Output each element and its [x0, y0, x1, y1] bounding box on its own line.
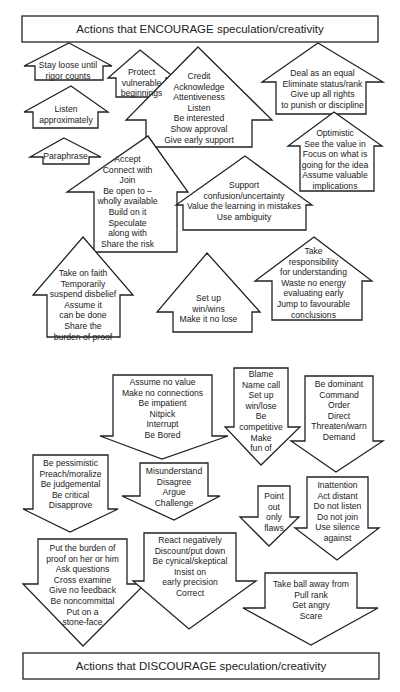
- label-line: Give no feedback: [36, 585, 129, 596]
- label-line: Set up: [157, 293, 260, 304]
- label-line: Build on it: [67, 207, 188, 218]
- label-line: fun of: [234, 443, 288, 454]
- label-line: Disagree: [140, 477, 208, 488]
- label-line: Interrupt: [113, 419, 212, 430]
- label-line: early precision: [140, 577, 240, 588]
- label-line: only: [258, 512, 290, 523]
- label-line: React negatively: [140, 535, 240, 546]
- label-line: Jump to favourable: [255, 299, 372, 310]
- label-line: Be judgemental: [30, 479, 111, 490]
- encourage-credit: Credit Acknowledge Attentiveness Listen …: [146, 71, 252, 145]
- label-line: Ask questions: [36, 564, 129, 575]
- encourage-take-faith: Take on faith Temporarily suspend disbel…: [33, 268, 133, 342]
- label-line: Discount/put down: [140, 546, 240, 557]
- label-line: Argue: [140, 487, 208, 498]
- label-line: Be noncommittal: [36, 596, 129, 607]
- label-line: Make it no lose: [157, 314, 260, 325]
- label-line: win/lose: [234, 401, 288, 412]
- label-line: win/wins: [157, 304, 260, 315]
- label-line: Get angry: [263, 600, 359, 611]
- label-line: Threaten/warn: [305, 421, 373, 432]
- label-line: Listen: [24, 104, 108, 115]
- label-line: Command: [305, 390, 373, 401]
- label-line: Share the risk: [67, 239, 188, 250]
- label-line: Insist on: [140, 567, 240, 578]
- label-line: Disapprove: [30, 500, 111, 511]
- label-line: Assume no value: [113, 377, 212, 388]
- header-title: Actions that ENCOURAGE speculation/creat…: [22, 16, 378, 42]
- label-line: Be interested: [146, 113, 252, 124]
- label-line: approximately: [24, 115, 108, 126]
- label-line: Be open to –: [67, 186, 188, 197]
- label-line: Blame: [234, 369, 288, 380]
- label-line: Do not listen: [307, 501, 368, 512]
- label-line: Preach/moralize: [30, 469, 111, 480]
- label-line: Make no connections: [113, 388, 212, 399]
- label-line: Assume it: [33, 300, 133, 311]
- label-line: Connect with: [67, 165, 188, 176]
- label-line: Act distant: [307, 491, 368, 502]
- label-line: Do not join: [307, 512, 368, 523]
- label-line: Value the learning in mistakes: [176, 201, 312, 212]
- label-line: competitive: [234, 422, 288, 433]
- label-line: Be Bored: [113, 430, 212, 441]
- label-line: Order: [305, 400, 373, 411]
- label-line: Take: [255, 246, 372, 257]
- label-line: evaluating early: [255, 288, 372, 299]
- label-line: Stay loose until: [24, 60, 112, 71]
- label-line: Direct: [305, 411, 373, 422]
- encourage-win-wins: Set up win/wins Make it no lose: [157, 293, 260, 325]
- label-line: Cross examine: [36, 575, 129, 586]
- label-line: Waste no energy: [255, 278, 372, 289]
- label-line: can be done: [33, 310, 133, 321]
- label-line: to punish or discipline: [262, 100, 383, 111]
- discourage-react-neg: React negatively Discount/put down Be cy…: [140, 535, 240, 599]
- label-line: Nitpick: [113, 409, 212, 420]
- discourage-burden: Put the burden of proof on her or him As…: [36, 543, 129, 628]
- label-line: wholly available: [67, 196, 188, 207]
- label-line: Be cynical/skeptical: [140, 556, 240, 567]
- discourage-assume-no-value: Assume no value Make no connections Be i…: [113, 377, 212, 441]
- label-line: suspend disbelief: [33, 289, 133, 300]
- discourage-blame: Blame Name call Set up win/lose Be compe…: [234, 369, 288, 454]
- label-line: Eliminate status/rank: [262, 79, 383, 90]
- label-line: Be dominant: [305, 379, 373, 390]
- label-line: Set up: [234, 390, 288, 401]
- label-line: responsibility: [255, 257, 372, 268]
- label-line: Share the: [33, 321, 133, 332]
- label-line: Optimistic: [288, 128, 382, 139]
- label-line: Be critical: [30, 490, 111, 501]
- label-line: flaws: [258, 523, 290, 534]
- label-line: Show approval: [146, 124, 252, 135]
- label-line: See the value in: [288, 139, 382, 150]
- label-line: Accept: [67, 154, 188, 165]
- label-line: going for the idea: [288, 160, 382, 171]
- encourage-deal-equal: Deal as an equal Eliminate status/rank G…: [262, 68, 383, 110]
- label-line: Be pessimistic: [30, 458, 111, 469]
- label-line: against: [307, 533, 368, 544]
- encourage-support: Support confusion/uncertainty Value the …: [176, 180, 312, 222]
- label-line: Use silence: [307, 522, 368, 533]
- label-line: Credit: [146, 71, 252, 82]
- label-line: Temporarily: [33, 279, 133, 290]
- label-line: proof on her or him: [36, 554, 129, 565]
- label-line: Point: [258, 491, 290, 502]
- label-line: stone-face: [36, 617, 129, 628]
- label-line: out: [258, 502, 290, 513]
- discourage-dominant: Be dominant Command Order Direct Threate…: [305, 379, 373, 443]
- discourage-take-ball: Take ball away from Pull rank Get angry …: [263, 579, 359, 621]
- label-line: along with: [67, 228, 188, 239]
- label-line: Focus on what is: [288, 149, 382, 160]
- label-line: Make: [234, 433, 288, 444]
- discourage-misunderstand: Misunderstand Disagree Argue Challenge: [140, 466, 208, 508]
- label-line: Attentiveness: [146, 92, 252, 103]
- label-line: Put the burden of: [36, 543, 129, 554]
- label-line: Give up all rights: [262, 89, 383, 100]
- discourage-inattention: Inattention Act distant Do not listen Do…: [307, 480, 368, 544]
- label-line: Misunderstand: [140, 466, 208, 477]
- label-line: conclusions: [255, 310, 372, 321]
- label-line: Challenge: [140, 498, 208, 509]
- encourage-stay-loose: Stay loose until rigor counts: [24, 60, 112, 81]
- label-line: Acknowledge: [146, 82, 252, 93]
- label-line: Give early support: [146, 135, 252, 146]
